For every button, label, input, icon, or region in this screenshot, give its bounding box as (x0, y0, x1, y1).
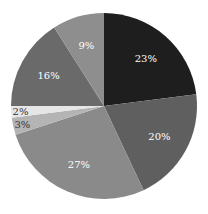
slice-label: 16% (37, 70, 59, 81)
pie-chart: 23%20%27%3%2%16%9% (0, 0, 208, 214)
slice-label: 3% (14, 119, 30, 130)
slice-label: 9% (78, 40, 94, 51)
pie-slices (11, 13, 197, 199)
slice-label: 2% (13, 106, 29, 117)
slice-label: 20% (148, 131, 170, 142)
slice-label: 27% (68, 159, 90, 170)
slice-label: 23% (135, 53, 157, 64)
